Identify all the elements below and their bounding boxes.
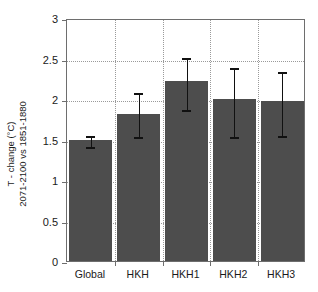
error-bar-cap-lower bbox=[86, 147, 95, 149]
x-tick-label: Global bbox=[75, 268, 105, 280]
gridline-vertical bbox=[163, 20, 164, 261]
plot-inner bbox=[67, 20, 304, 261]
y-tick-mark bbox=[62, 182, 67, 183]
x-tick-mark bbox=[163, 261, 164, 266]
y-tick-label: 1.5 bbox=[6, 135, 58, 147]
error-bar-cap-upper bbox=[182, 58, 191, 60]
y-tick-mark bbox=[62, 61, 67, 62]
error-bar-line bbox=[187, 58, 188, 110]
x-tick-label: HKH3 bbox=[267, 268, 295, 280]
y-axis-label-line2: 2071-2100 vs 1851-1880 bbox=[17, 101, 29, 207]
error-bar-cap-lower bbox=[134, 137, 143, 139]
x-tick-label: HKH bbox=[127, 268, 149, 280]
error-bar-cap-upper bbox=[230, 68, 239, 70]
error-bar-cap-lower bbox=[278, 136, 287, 138]
y-tick-mark bbox=[62, 223, 67, 224]
error-bar-cap-upper bbox=[134, 93, 143, 95]
y-tick-mark bbox=[62, 20, 67, 21]
error-bar-cap-upper bbox=[86, 136, 95, 138]
bar bbox=[69, 140, 112, 262]
gridline-horizontal bbox=[67, 61, 304, 62]
error-bar-cap-lower bbox=[182, 110, 191, 112]
x-tick-label: HKH2 bbox=[219, 268, 247, 280]
error-bar-cap-upper bbox=[278, 72, 287, 74]
y-tick-label: 1 bbox=[6, 175, 58, 187]
x-tick-mark bbox=[210, 261, 211, 266]
y-tick-mark bbox=[62, 101, 67, 102]
y-tick-mark bbox=[62, 142, 67, 143]
error-bar-line bbox=[282, 72, 283, 136]
y-tick-label: 0 bbox=[6, 256, 58, 268]
x-tick-mark bbox=[258, 261, 259, 266]
plot-area bbox=[66, 19, 305, 262]
y-tick-label: 2.5 bbox=[6, 54, 58, 66]
error-bar-cap-lower bbox=[230, 137, 239, 139]
gridline-vertical bbox=[210, 20, 211, 261]
x-tick-mark bbox=[115, 261, 116, 266]
error-bar-line bbox=[234, 68, 235, 138]
y-tick-label: 2 bbox=[6, 94, 58, 106]
x-tick-label: HKH1 bbox=[171, 268, 199, 280]
error-bar-line bbox=[139, 93, 140, 138]
y-tick-mark bbox=[62, 263, 67, 264]
chart-figure: T - change (°C) 2071-2100 vs 1851-1880 0… bbox=[0, 0, 318, 292]
gridline-vertical bbox=[258, 20, 259, 261]
y-tick-label: 3 bbox=[6, 13, 58, 25]
y-tick-label: 0.5 bbox=[6, 216, 58, 228]
gridline-vertical bbox=[115, 20, 116, 261]
y-axis-label-line1: T - change (°C) bbox=[5, 101, 17, 207]
